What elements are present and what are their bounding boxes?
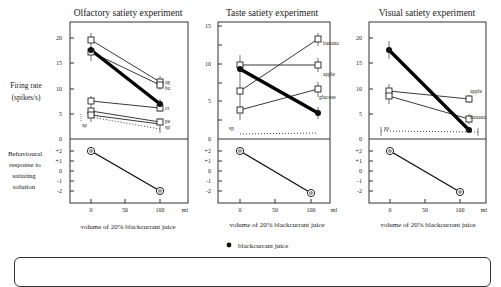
- svg-text:+2: +2: [356, 148, 362, 154]
- filled-circle-icon: [227, 243, 232, 248]
- panel-taste: Taste satiety experiment 15 10 5 0 banan…: [205, 8, 340, 229]
- behaviour-y-ticks: +2 +1 0 -1 -2: [356, 148, 373, 194]
- svg-text:+1: +1: [356, 158, 362, 164]
- x-ticks: 0 50 100 ml: [90, 207, 189, 213]
- series-labels: banana apple glucose sp: [229, 40, 339, 131]
- svg-text:50: 50: [122, 207, 128, 213]
- svg-text:-2: -2: [357, 188, 362, 194]
- svg-text:5: 5: [208, 98, 211, 104]
- panel-title: Taste satiety experiment: [226, 8, 319, 18]
- svg-text:+1: +1: [56, 158, 62, 164]
- svg-text:-2: -2: [57, 188, 62, 194]
- svg-text:10: 10: [56, 86, 62, 92]
- y-ticks: 15 10 5 0: [205, 23, 222, 142]
- svg-text:apple: apple: [470, 88, 482, 94]
- svg-text:-1: -1: [206, 178, 211, 184]
- svg-text:cr: cr: [165, 105, 169, 111]
- svg-text:-1: -1: [57, 178, 62, 184]
- svg-text:10: 10: [205, 61, 211, 67]
- x-axis-label: volume of 20% blackcurrant juice: [80, 223, 175, 231]
- svg-text:+2: +2: [56, 148, 62, 154]
- x-ticks: 0 50 100 ml: [239, 207, 338, 213]
- svg-text:banana: banana: [470, 114, 486, 120]
- svg-text:0: 0: [59, 168, 62, 174]
- legend: blackcurrant juice: [227, 242, 289, 250]
- svg-text:50: 50: [272, 207, 278, 213]
- svg-text:20: 20: [356, 35, 362, 41]
- svg-text:sp: sp: [82, 122, 87, 128]
- svg-text:5: 5: [59, 111, 62, 117]
- svg-text:-1: -1: [357, 178, 362, 184]
- behaviour-y-ticks: +2 +1 0 -1 -2: [205, 148, 222, 194]
- y-axis-unit: (spikes/s): [12, 93, 41, 102]
- panel-title: Visual satiety experiment: [379, 8, 476, 18]
- svg-text:0: 0: [208, 168, 211, 174]
- svg-text:glucose: glucose: [319, 94, 336, 100]
- svg-text:15: 15: [356, 60, 362, 66]
- svg-text:50: 50: [422, 207, 428, 213]
- svg-text:response to: response to: [9, 161, 41, 169]
- svg-text:0: 0: [359, 136, 362, 142]
- panel-title: Olfactory satiety experiment: [74, 8, 183, 18]
- svg-text:100: 100: [156, 207, 165, 213]
- svg-text:10: 10: [356, 86, 362, 92]
- y-ticks: 20 15 10 5 0: [356, 35, 373, 142]
- legend-label: blackcurrant juice: [238, 242, 288, 250]
- svg-text:sp: sp: [229, 125, 234, 131]
- svg-text:15: 15: [205, 23, 211, 29]
- svg-text:0: 0: [239, 207, 242, 213]
- svg-text:+1: +1: [205, 158, 211, 164]
- x-axis-label: volume of 20% blackcurrant juice: [380, 221, 475, 229]
- svg-text:apple: apple: [323, 71, 335, 77]
- y-ticks: 20 15 10 5 0: [56, 35, 74, 142]
- caption-box: [14, 257, 491, 287]
- y-axis-label: Firing rate: [10, 81, 42, 90]
- svg-text:ba: ba: [165, 85, 171, 91]
- svg-text:0: 0: [359, 168, 362, 174]
- svg-text:sp: sp: [384, 125, 389, 131]
- svg-text:0: 0: [90, 207, 93, 213]
- svg-text:sp: sp: [165, 124, 170, 130]
- svg-text:ml: ml: [182, 207, 189, 213]
- svg-text:ml: ml: [331, 207, 338, 213]
- x-axis-label: volume of 20% blackcurrant juice: [229, 221, 324, 229]
- svg-text:100: 100: [307, 207, 316, 213]
- svg-text:-2: -2: [206, 188, 211, 194]
- svg-text:5: 5: [359, 111, 362, 117]
- behaviour-y-ticks: +2 +1 0 -1 -2: [56, 148, 74, 194]
- svg-text:banana: banana: [323, 40, 339, 46]
- panel-visual: Visual satiety experiment 20 15 10 5 0 a…: [356, 8, 488, 229]
- svg-text:solution: solution: [13, 183, 36, 191]
- svg-text:20: 20: [56, 35, 62, 41]
- x-ticks: 0 50 100 ml: [389, 207, 488, 213]
- svg-text:15: 15: [56, 60, 62, 66]
- panel-olfactory: Olfactory satiety experiment Firing rate…: [8, 8, 189, 231]
- svg-text:100: 100: [456, 207, 465, 213]
- svg-text:ml: ml: [481, 207, 488, 213]
- svg-text:0: 0: [59, 136, 62, 142]
- svg-text:0: 0: [389, 207, 392, 213]
- svg-text:+2: +2: [205, 148, 211, 154]
- svg-text:0: 0: [208, 136, 211, 142]
- behaviour-label: Behavioural: [8, 150, 42, 158]
- svg-text:satiating: satiating: [12, 172, 36, 180]
